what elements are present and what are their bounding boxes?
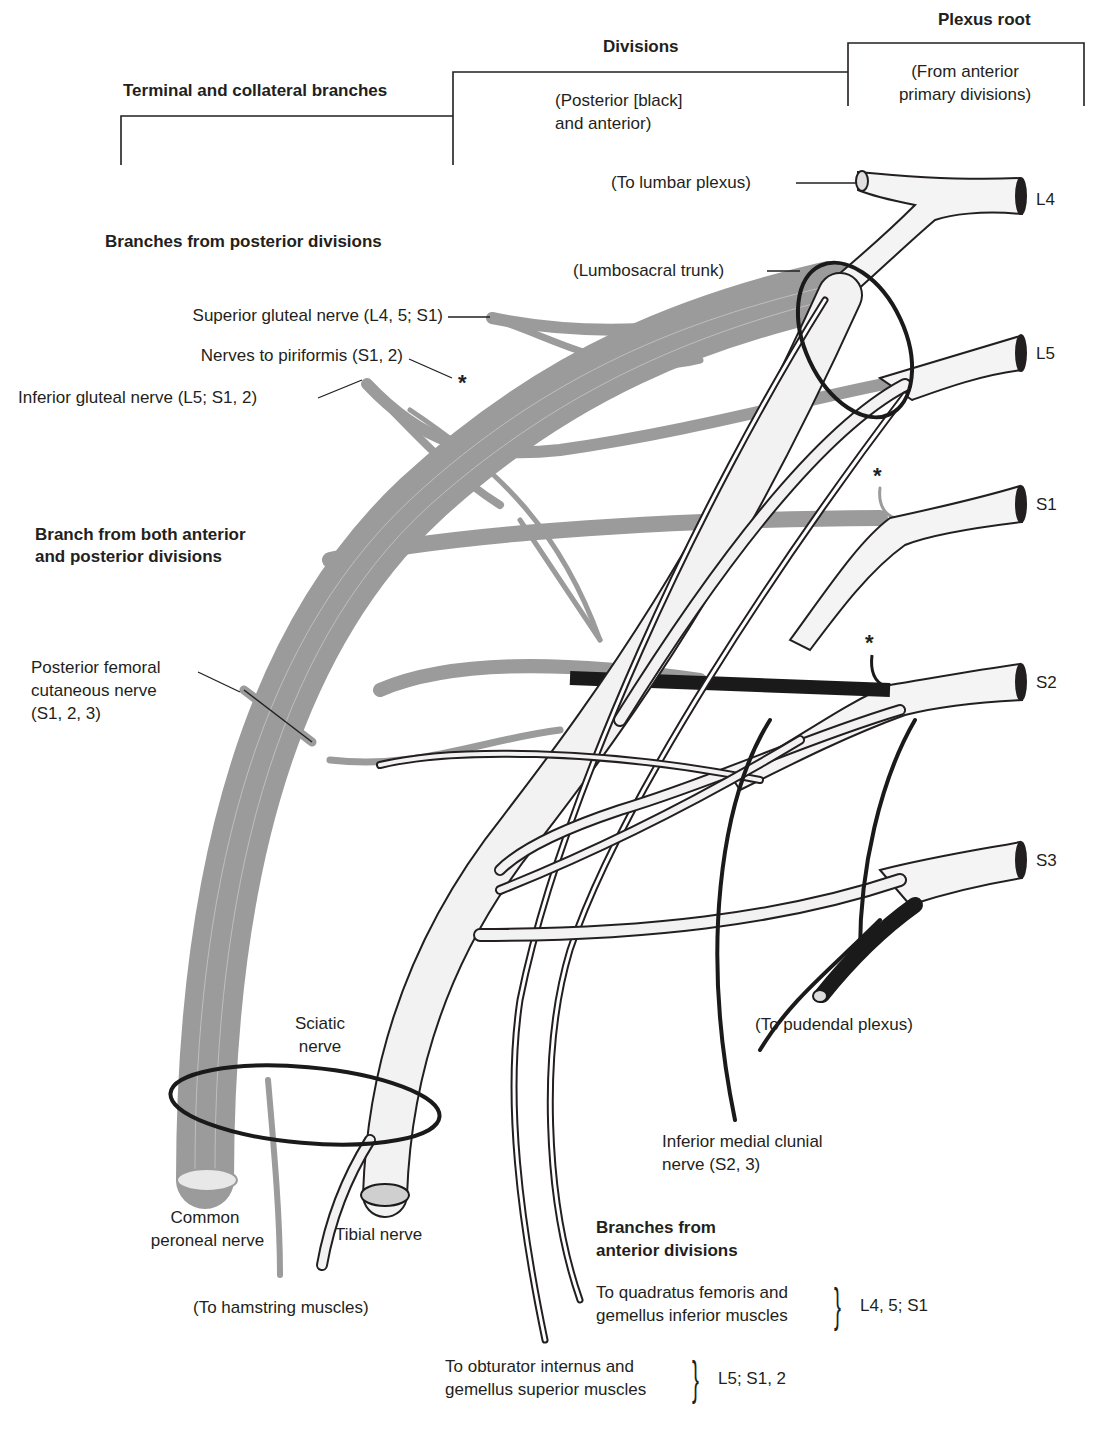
brace-obturator: } bbox=[692, 1355, 699, 1401]
segments-obturator: L5; S1, 2 bbox=[718, 1368, 786, 1390]
heading-both-divisions-2: and posterior divisions bbox=[35, 546, 222, 568]
label-quadratus-1: To quadratus femoris and bbox=[596, 1282, 788, 1304]
label-common-peroneal-1: Common bbox=[140, 1207, 270, 1229]
heading-anterior-1: Branches from bbox=[596, 1217, 716, 1239]
label-to-pudendal-plexus: (To pudendal plexus) bbox=[755, 1014, 913, 1036]
label-lumbosacral-trunk: (Lumbosacral trunk) bbox=[573, 260, 724, 282]
root-label-s1: S1 bbox=[1036, 494, 1057, 516]
label-inferior-gluteal: Inferior gluteal nerve (L5; S1, 2) bbox=[18, 387, 257, 409]
header-plexus-root-sub1: (From anterior bbox=[860, 61, 1070, 83]
header-plexus-root: Plexus root bbox=[938, 10, 1031, 30]
root-label-l5: L5 bbox=[1036, 343, 1055, 365]
root-label-l4: L4 bbox=[1036, 189, 1055, 211]
header-divisions: Divisions bbox=[603, 37, 679, 57]
heading-both-divisions-1: Branch from both anterior bbox=[35, 524, 246, 546]
header-divisions-sub2: and anterior) bbox=[555, 113, 651, 135]
label-superior-gluteal: Superior gluteal nerve (L4, 5; S1) bbox=[60, 305, 443, 327]
anterior-divisions bbox=[322, 295, 905, 1340]
label-to-lumbar-plexus: (To lumbar plexus) bbox=[611, 172, 751, 194]
label-common-peroneal-2: peroneal nerve bbox=[135, 1230, 280, 1252]
label-obturator-2: gemellus superior muscles bbox=[445, 1379, 646, 1401]
label-sciatic-1: Sciatic bbox=[270, 1013, 370, 1035]
label-nerves-to-piriformis: Nerves to piriformis (S1, 2) bbox=[60, 345, 403, 367]
asterisk-s2: * bbox=[865, 632, 874, 654]
label-to-hamstring: (To hamstring muscles) bbox=[193, 1297, 369, 1319]
label-quadratus-2: gemellus inferior muscles bbox=[596, 1305, 788, 1327]
label-sciatic-2: nerve bbox=[270, 1036, 370, 1058]
common-peroneal-cut-end bbox=[177, 1169, 237, 1191]
label-pfcn-3: (S1, 2, 3) bbox=[31, 703, 101, 725]
asterisk-piriformis: * bbox=[458, 372, 467, 394]
label-clunial-1: Inferior medial clunial bbox=[662, 1131, 823, 1153]
heading-anterior-2: anterior divisions bbox=[596, 1240, 738, 1262]
root-label-s2: S2 bbox=[1036, 672, 1057, 694]
brace-quadratus: } bbox=[834, 1282, 841, 1328]
label-pfcn-1: Posterior femoral bbox=[31, 657, 160, 679]
label-clunial-2: nerve (S2, 3) bbox=[662, 1154, 760, 1176]
label-obturator-1: To obturator internus and bbox=[445, 1356, 634, 1378]
header-terminal-branches: Terminal and collateral branches bbox=[123, 81, 387, 101]
pudendal-branch bbox=[822, 905, 915, 995]
heading-posterior-branches: Branches from posterior divisions bbox=[105, 231, 382, 253]
header-plexus-root-sub2: primary divisions) bbox=[860, 84, 1070, 106]
asterisk-s1: * bbox=[873, 465, 882, 487]
tibial-cut-end bbox=[361, 1184, 409, 1206]
label-tibial-nerve: Tibial nerve bbox=[335, 1224, 422, 1246]
header-divisions-sub1: (Posterior [black] bbox=[555, 90, 683, 112]
root-label-s3: S3 bbox=[1036, 850, 1057, 872]
label-pfcn-2: cutaneous nerve bbox=[31, 680, 157, 702]
segments-quadratus: L4, 5; S1 bbox=[860, 1295, 928, 1317]
